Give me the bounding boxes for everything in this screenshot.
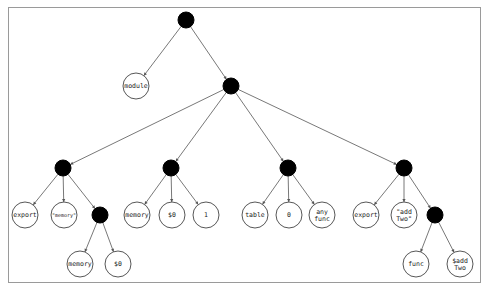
node-label: Two": [396, 215, 412, 223]
tree-edge: [288, 176, 289, 202]
tree-node-inner: [163, 160, 179, 176]
node-label: 0: [287, 211, 291, 219]
tree-node-leaf: "addTwo": [391, 202, 417, 228]
tree-node-inner: [223, 78, 239, 94]
tree-node-inner: [55, 160, 71, 176]
node-label: 1: [204, 211, 208, 219]
tree-node-inner: [427, 207, 443, 223]
node-label: export: [13, 211, 37, 219]
tree-node-inner: [92, 207, 108, 223]
node-label: module: [124, 82, 148, 90]
node-label: export: [354, 211, 378, 219]
tree-node-leaf: $addTwo: [447, 251, 473, 277]
tree-node-leaf: table: [242, 202, 268, 228]
tree-node-leaf: memory: [124, 202, 150, 228]
node-label: $0: [168, 211, 176, 219]
node-label: func: [314, 215, 330, 223]
tree-node-inner: [178, 12, 194, 28]
filled-node-circle: [427, 207, 443, 223]
filled-node-circle: [163, 160, 179, 176]
filled-node-circle: [280, 160, 296, 176]
filled-node-circle: [92, 207, 108, 223]
syntax-tree-diagram: moduleexport"memory"memory$0memory$01tab…: [0, 0, 490, 292]
tree-node-leaf: 1: [193, 202, 219, 228]
tree-node-leaf: $0: [105, 251, 131, 277]
filled-node-circle: [396, 160, 412, 176]
tree-node-leaf: memory: [67, 251, 93, 277]
tree-node-leaf: export: [353, 202, 379, 228]
tree-node-leaf: module: [123, 73, 149, 99]
node-label: memory: [125, 211, 149, 219]
tree-node-leaf: func: [403, 251, 429, 277]
node-label: memory: [68, 260, 92, 268]
tree-node-inner: [396, 160, 412, 176]
node-label: $0: [114, 260, 122, 268]
tree-node-leaf: anyfunc: [309, 202, 335, 228]
diagram-frame: [9, 8, 481, 283]
tree-edge: [171, 176, 172, 202]
node-label: table: [245, 211, 265, 219]
tree-node-inner: [280, 160, 296, 176]
filled-node-circle: [55, 160, 71, 176]
tree-node-leaf: export: [12, 202, 38, 228]
filled-node-circle: [178, 12, 194, 28]
filled-node-circle: [223, 78, 239, 94]
node-label: Two: [454, 264, 466, 272]
node-label: func: [408, 260, 424, 268]
node-label: "memory": [52, 212, 76, 219]
tree-edge: [63, 176, 64, 202]
tree-node-leaf: $0: [159, 202, 185, 228]
tree-node-leaf: 0: [276, 202, 302, 228]
tree-node-leaf: "memory": [51, 202, 77, 228]
